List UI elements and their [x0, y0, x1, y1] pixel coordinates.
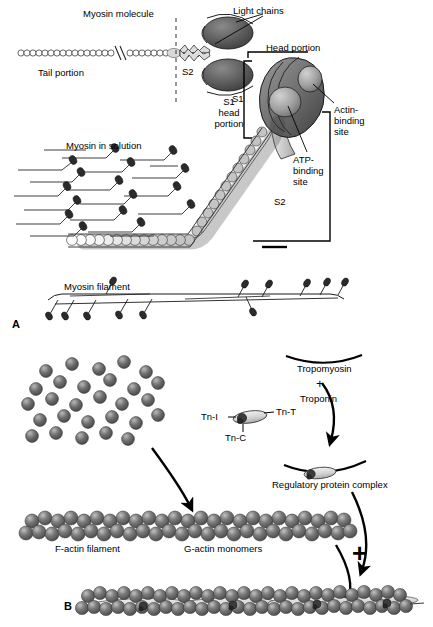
label-tropomyosin: Tropomyosin	[297, 363, 352, 374]
myosin-molecule-schematic	[18, 14, 263, 104]
label-tn-t: Tn-T	[276, 406, 296, 417]
label-plus-bottom: +	[352, 540, 367, 566]
myosin-actin-figure: Myosin molecule Light chains Tail portio…	[0, 0, 433, 627]
label-s1-bracket: S1	[232, 93, 244, 104]
panel-label-b: B	[64, 600, 72, 612]
tropomyosin-arc	[286, 355, 362, 363]
label-plus-top: +	[316, 378, 324, 389]
troponin-complex-schematic	[228, 409, 274, 432]
myosin-head-3d	[244, 52, 334, 241]
figure-artwork	[0, 0, 433, 627]
label-tail-portion: Tail portion	[38, 67, 84, 78]
label-s2-tail: S2	[182, 66, 194, 77]
actin-binding-site-lobe	[298, 66, 322, 92]
myosin-tail-coiled-coil	[18, 46, 181, 60]
arrow-pool-to-factin	[152, 448, 190, 506]
myosin-s1-head-lower	[202, 59, 253, 95]
myosin-in-solution-cluster	[14, 142, 196, 236]
label-head-portion: Head portion	[266, 42, 320, 53]
myosin-s2-neck	[180, 45, 210, 61]
label-myosin-filament: Myosin filament	[64, 281, 130, 292]
label-tn-i: Tn-I	[201, 411, 218, 422]
label-tn-c: Tn-C	[225, 432, 246, 443]
label-light-chains: Light chains	[233, 5, 284, 16]
tn-i-sphere	[237, 418, 242, 423]
label-atp-binding-site: ATP- binding site	[293, 154, 324, 187]
panel-label-a: A	[12, 318, 20, 330]
thin-filament-assembled	[75, 585, 424, 615]
label-myosin-molecule: Myosin molecule	[83, 8, 154, 19]
label-myosin-in-solution: Myosin in solution	[66, 140, 142, 151]
atp-binding-site-lobe	[269, 87, 301, 117]
label-s1-head-portion: S1 head portion	[198, 96, 260, 129]
g-actin-monomer-pool	[22, 356, 190, 506]
arrow-to-regulatory-complex	[322, 383, 334, 440]
label-regulatory-protein-complex: Regulatory protein complex	[272, 479, 388, 490]
label-actin-binding-site: Actin- binding site	[334, 104, 365, 137]
label-s2-bracket: S2	[274, 196, 286, 207]
f-actin-filament	[19, 511, 357, 601]
label-troponin: Troponin	[300, 393, 337, 404]
regulatory-protein-complex	[284, 461, 366, 480]
label-f-actin-filament: F-actin filament	[55, 543, 120, 554]
label-g-actin-monomers: G-actin monomers	[184, 543, 262, 554]
